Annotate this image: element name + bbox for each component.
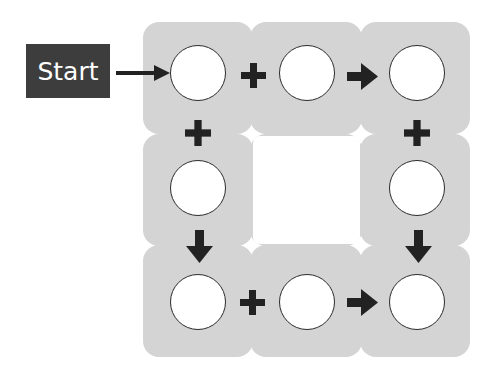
circle-r1c2[interactable] [279,45,335,101]
center-hole [253,136,360,244]
circle-r3c3[interactable] [389,274,445,330]
circle-r3c1[interactable] [170,274,226,330]
plus-icon [185,120,211,146]
circle-r1c3[interactable] [389,45,445,101]
start-arrow-right-icon [116,64,170,82]
start-label: Start [26,44,110,98]
circle-r3c2[interactable] [279,274,335,330]
circle-r1c1[interactable] [170,45,226,101]
plus-icon [240,290,265,315]
arrow-right-icon [347,289,378,316]
plus-icon [241,63,266,88]
arrow-down-icon [405,230,432,263]
circle-r2c3[interactable] [389,160,445,216]
arrow-right-icon [347,63,378,90]
plus-icon [404,120,430,146]
arrow-down-icon [186,230,213,263]
circle-r2c1[interactable] [170,160,226,216]
